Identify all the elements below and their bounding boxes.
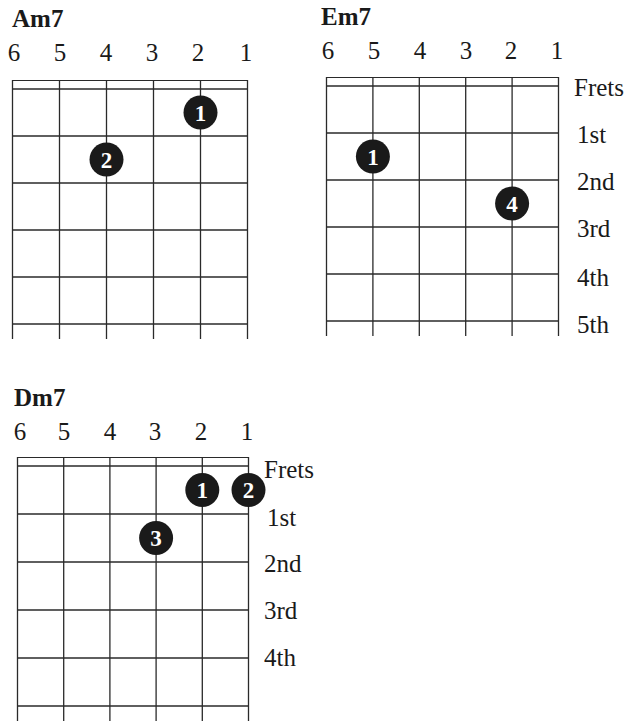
string-number: 1 xyxy=(237,419,257,444)
string-number: 3 xyxy=(145,419,165,444)
chord-name: Dm7 xyxy=(14,385,65,410)
fret-label: 5th xyxy=(577,312,609,337)
finger-number: 2 xyxy=(243,478,255,503)
fret-label: 3rd xyxy=(264,598,297,623)
string-number: 1 xyxy=(547,38,567,63)
string-number: 1 xyxy=(236,40,256,65)
finger-dot: 2 xyxy=(90,143,124,177)
string-number: 5 xyxy=(50,40,70,65)
finger-dot: 2 xyxy=(232,473,266,507)
fretboard: 123 xyxy=(17,457,250,721)
fret-label: 1st xyxy=(577,122,606,147)
finger-number: 1 xyxy=(197,478,209,503)
string-number: 3 xyxy=(456,38,476,63)
fret-label: Frets xyxy=(264,457,314,482)
string-number: 3 xyxy=(142,40,162,65)
string-number: 6 xyxy=(10,419,30,444)
string-number: 4 xyxy=(410,38,430,63)
fretboard: 12 xyxy=(12,80,249,339)
finger-number: 2 xyxy=(101,148,113,173)
finger-number: 1 xyxy=(367,145,379,170)
string-number: 2 xyxy=(191,419,211,444)
finger-number: 3 xyxy=(150,526,162,551)
string-number: 2 xyxy=(501,38,521,63)
finger-dot: 1 xyxy=(185,473,219,507)
fret-label: 3rd xyxy=(577,216,610,241)
fret-label: Frets xyxy=(574,75,624,100)
chord-name: Em7 xyxy=(321,4,371,29)
finger-dot: 1 xyxy=(184,96,218,130)
string-number: 2 xyxy=(188,40,208,65)
string-number: 6 xyxy=(318,38,338,63)
fret-label: 1st xyxy=(267,505,296,530)
string-number: 4 xyxy=(100,419,120,444)
string-number: 6 xyxy=(4,40,24,65)
finger-dot: 1 xyxy=(356,140,390,174)
finger-dot: 4 xyxy=(495,187,529,221)
fret-label: 4th xyxy=(577,265,609,290)
finger-dot: 3 xyxy=(139,521,173,555)
string-number: 4 xyxy=(96,40,116,65)
finger-number: 4 xyxy=(506,192,518,217)
finger-number: 1 xyxy=(195,101,207,126)
string-number: 5 xyxy=(364,38,384,63)
fret-label: 4th xyxy=(264,645,296,670)
fret-label: 2nd xyxy=(577,169,615,194)
chord-name: Am7 xyxy=(12,6,63,31)
fret-label: 2nd xyxy=(264,551,302,576)
string-number: 5 xyxy=(54,419,74,444)
fretboard: 14 xyxy=(326,77,560,336)
